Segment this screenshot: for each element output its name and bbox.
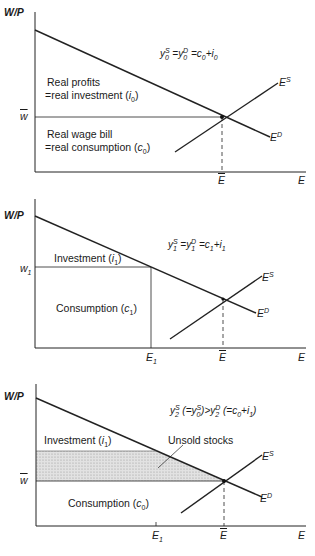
w1-label: w1 (20, 262, 32, 274)
x-axis-label: E (298, 351, 305, 363)
equation-1: y0S =y0D =c0+i0 (160, 48, 218, 60)
es-label: ES (262, 271, 274, 283)
ed-label: ED (270, 131, 282, 143)
x-axis-label: E (298, 529, 305, 541)
investment-label: Investment (i1) (44, 434, 112, 446)
equilibrium-point (221, 297, 224, 300)
investment-label: Investment (i1) (54, 252, 122, 264)
x-axis-label: E (298, 174, 305, 186)
e-bar-label: E (220, 529, 227, 541)
e-bar-label: E (219, 351, 226, 363)
unsold-stocks-label: Unsold stocks (168, 434, 233, 446)
equilibrium-point (222, 479, 226, 483)
equilibrium-point (220, 115, 224, 119)
equation-2: y1S =y1D =c1+i1 (168, 239, 226, 251)
y-axis-label: W/P (4, 209, 24, 221)
supply-curve (170, 276, 262, 339)
wbar-label: w (20, 474, 28, 486)
real-investment-label: =real investment (i0) (45, 89, 139, 101)
y-axis-label: W/P (4, 390, 24, 402)
consumption-label: Consumption (c1) (56, 302, 137, 314)
e1-label: E1 (146, 351, 157, 363)
real-wage-bill-label: Real wage bill (47, 128, 112, 140)
wbar-label: w (20, 110, 28, 122)
y-axis-label: W/P (4, 6, 24, 18)
unsold-stocks-area (36, 451, 224, 481)
real-profits-label: Real profits (47, 76, 100, 88)
equation-3: y2S (=y0S)>y2D (=c0+i1) (170, 405, 256, 417)
real-consumption-label: =real consumption (c0) (45, 141, 150, 153)
e1-label: E1 (152, 529, 163, 541)
supply-curve (175, 83, 278, 152)
ed-label: ED (260, 492, 272, 504)
es-label: ES (279, 76, 291, 88)
ed-label: ED (257, 307, 269, 319)
e-bar-label: E (218, 174, 225, 186)
consumption-label: Consumption (c0) (68, 497, 149, 509)
es-label: ES (262, 450, 274, 462)
supply-curve (181, 455, 262, 513)
